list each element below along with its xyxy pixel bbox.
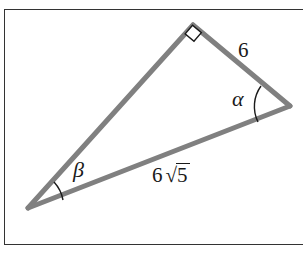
figure-root: 6 6√5 α β bbox=[0, 0, 303, 262]
angle-label-beta: β bbox=[73, 159, 84, 181]
side-label-leg: 6 bbox=[238, 40, 249, 61]
side-label-hypotenuse: 6√5 bbox=[152, 163, 190, 186]
hypotenuse-radical-group: √5 bbox=[166, 163, 190, 186]
triangle-hypotenuse-left-to-right bbox=[28, 106, 290, 208]
hypotenuse-radicand: 5 bbox=[176, 163, 190, 186]
hypotenuse-coefficient: 6 bbox=[152, 163, 163, 187]
angle-label-alpha: α bbox=[232, 88, 244, 110]
triangle-diagram bbox=[0, 0, 303, 262]
